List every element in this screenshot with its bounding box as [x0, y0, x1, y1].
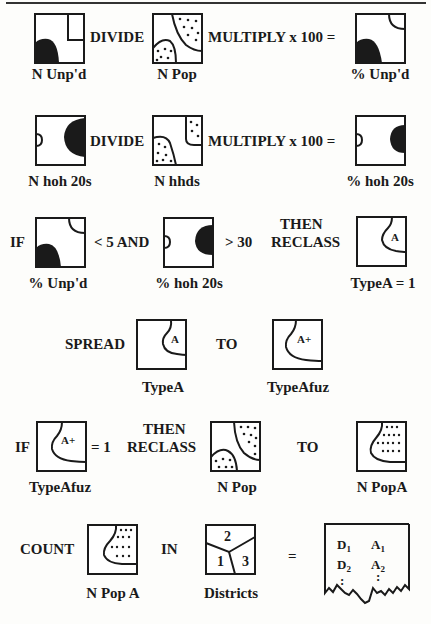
label-districts: Districts [204, 586, 258, 601]
label-pct-unpd-cond: % Unp'd [29, 276, 88, 291]
district-1: 1 [217, 554, 224, 569]
map-n-hhds [152, 115, 203, 166]
label-n-unpd: N Unp'd [32, 67, 87, 82]
map-districts: 2 1 3 [205, 524, 256, 575]
table-dots-right: : [376, 569, 380, 584]
op-in: IN [161, 542, 178, 557]
map-n-unpd [34, 13, 85, 64]
op-to-2: TO [297, 440, 318, 455]
map-text-a: A [391, 231, 399, 243]
map-typeafuz: A+ [272, 319, 323, 370]
label-typeafuz: TypeAfuz [267, 380, 329, 395]
op-equals: = [288, 549, 297, 564]
map-typea-1: A [356, 216, 407, 267]
op-reclass: RECLASS [271, 235, 340, 250]
label-pct-unpd: % Unp'd [351, 67, 410, 82]
label-n-hhds: N hhds [154, 174, 199, 189]
op-count: COUNT [20, 542, 74, 557]
op-divide-2: DIVIDE [90, 134, 144, 149]
op-reclass-2: RECLASS [127, 440, 196, 455]
district-2: 2 [224, 529, 231, 544]
op-spread: SPREAD [65, 337, 125, 352]
op-eq-1: = 1 [91, 440, 111, 455]
map-typea: A [136, 319, 187, 370]
op-to: TO [216, 337, 237, 352]
map-pct-unpd [355, 13, 406, 64]
result-table: D1 A1 D2 A2 : : [323, 523, 411, 607]
label-n-popa: N PopA [357, 480, 407, 495]
label-pct-hoh-20s-cond: % hoh 20s [155, 276, 223, 291]
op-divide: DIVIDE [90, 30, 144, 45]
label-n-hoh-20s: N hoh 20s [28, 174, 91, 189]
district-3: 3 [242, 554, 249, 569]
map-n-pop-a [87, 524, 138, 575]
label-typea: TypeA [142, 380, 184, 395]
op-multiply-2: MULTIPLY x 100 = [208, 134, 335, 149]
label-n-pop: N Pop [157, 67, 197, 82]
map-text-a-plus-2: A+ [61, 434, 75, 446]
map-pct-hoh-20s [355, 115, 406, 166]
op-less-5-and: < 5 AND [94, 235, 149, 250]
map-n-hoh-20s [35, 115, 86, 166]
map-pct-unpd-cond [35, 217, 86, 268]
map-n-pop [152, 13, 203, 64]
op-multiply: MULTIPLY x 100 = [208, 30, 335, 45]
label-typea-eq-1: TypeA = 1 [351, 276, 416, 291]
table-a1: A1 [371, 537, 385, 554]
op-then: THEN [280, 217, 323, 232]
table-d1: D1 [337, 537, 351, 554]
map-typeafuz-cond: A+ [36, 421, 87, 472]
table-dots-left: : [340, 573, 344, 588]
label-pct-hoh-20s: % hoh 20s [346, 174, 414, 189]
op-then-2: THEN [143, 422, 186, 437]
op-greater-30: > 30 [225, 235, 252, 250]
top-rule [6, 2, 426, 4]
map-n-popa [356, 421, 407, 472]
label-n-pop-a: N Pop A [86, 586, 139, 601]
table-d2: D2 [337, 557, 351, 574]
map-text-a-2: A [171, 333, 179, 345]
map-text-a-plus: A+ [297, 333, 311, 345]
label-typeafuz-cond: TypeAfuz [29, 480, 91, 495]
map-pct-hoh-20s-cond [163, 217, 214, 268]
op-if-2: IF [15, 440, 30, 455]
op-if: IF [10, 235, 25, 250]
label-n-pop-2: N Pop [217, 480, 257, 495]
map-n-pop-2 [210, 421, 261, 472]
